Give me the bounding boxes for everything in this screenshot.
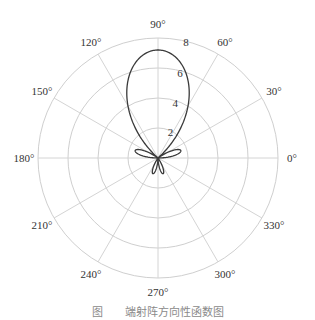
angle-tick-label: 270° bbox=[148, 286, 169, 298]
radial-tick-label: 2 bbox=[168, 126, 174, 138]
angle-tick-label: 240° bbox=[81, 268, 102, 280]
grid-spoke bbox=[54, 158, 158, 218]
angle-tick-label: 330° bbox=[264, 219, 285, 231]
angle-tick-label: 180° bbox=[14, 152, 35, 164]
grid-spoke bbox=[54, 98, 158, 158]
angle-tick-label: 90° bbox=[150, 18, 165, 30]
angle-tick-label: 210° bbox=[31, 219, 52, 231]
figure-caption: 图 端射阵方向性函数图 bbox=[0, 306, 315, 320]
angle-tick-label: 150° bbox=[31, 85, 52, 97]
angle-tick-label: 60° bbox=[217, 36, 232, 48]
grid-spoke bbox=[98, 158, 158, 262]
angle-tick-label: 300° bbox=[215, 268, 236, 280]
radial-tick-label: 8 bbox=[183, 36, 189, 48]
angle-tick-label: 30° bbox=[266, 85, 281, 97]
grid-spoke bbox=[158, 158, 262, 218]
angle-tick-label: 0° bbox=[287, 152, 297, 164]
radial-tick-label: 4 bbox=[172, 97, 178, 109]
radial-tick-label: 6 bbox=[177, 67, 183, 79]
grid-spoke bbox=[158, 158, 218, 262]
angle-tick-label: 120° bbox=[81, 36, 102, 48]
